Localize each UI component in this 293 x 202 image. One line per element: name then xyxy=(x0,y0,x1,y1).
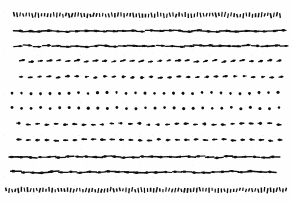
field-tick xyxy=(68,13,69,18)
field-arrow-ink-blob xyxy=(60,171,62,173)
field-arrow-ink-blob xyxy=(129,139,131,141)
field-arrow-ink-blob xyxy=(12,170,15,173)
field-arrow-ink-blob xyxy=(129,123,131,125)
field-arrow-ink-blob xyxy=(255,30,257,32)
field-arrow xyxy=(182,107,185,110)
field-arrow-ink-blob xyxy=(173,170,176,173)
field-arrow-ink-blob xyxy=(105,45,107,47)
field-arrow-ink-blob xyxy=(39,76,41,78)
field-tick xyxy=(64,188,65,191)
field-tick xyxy=(280,13,281,18)
field-arrow-ink-blob xyxy=(88,171,90,173)
field-arrow-ink-blob xyxy=(263,30,265,32)
field-arrow-ink-blob xyxy=(27,124,29,126)
field-arrow-ink-blob xyxy=(103,155,106,158)
field-arrow-ink-blob xyxy=(162,45,164,47)
vector-field-figure xyxy=(0,0,293,202)
field-arrow xyxy=(87,107,90,110)
field-tick xyxy=(17,12,18,17)
field-tick xyxy=(224,189,225,192)
field-arrow-ink-blob xyxy=(94,76,97,79)
field-tick xyxy=(258,189,259,193)
field-arrow-ink-blob xyxy=(113,155,116,158)
field-arrow-ink-blob xyxy=(244,156,246,158)
field-arrow-ink-blob xyxy=(253,156,256,159)
field-arrow xyxy=(163,106,166,109)
field-tick xyxy=(175,14,176,18)
field-arrow-ink-blob xyxy=(124,45,126,47)
field-tick xyxy=(157,12,158,17)
field-tick xyxy=(219,13,220,17)
field-arrow-ink-blob xyxy=(242,59,244,61)
field-tick xyxy=(18,188,19,193)
field-arrow-ink-blob xyxy=(122,30,124,32)
field-arrow-ink-blob xyxy=(76,155,78,157)
field-arrow-ink-blob xyxy=(141,60,143,62)
field-arrow-ink-blob xyxy=(189,31,191,33)
field-tick xyxy=(63,14,64,18)
field-arrow-ink-blob xyxy=(19,45,21,47)
field-arrow-ink-blob xyxy=(196,60,198,62)
field-arrow-ink-blob xyxy=(92,124,94,126)
field-arrow-ink-blob xyxy=(228,45,231,48)
field-tick xyxy=(58,188,59,192)
field-arrow-ink-blob xyxy=(170,29,172,31)
field-arrow-ink-blob xyxy=(67,75,70,78)
field-tick xyxy=(135,189,136,192)
field-arrow xyxy=(239,107,242,110)
field-arrow-ink-blob xyxy=(114,45,116,47)
quiver-plot-canvas xyxy=(0,0,293,202)
field-arrow-nub xyxy=(262,76,265,77)
field-arrow-ink-blob xyxy=(123,59,125,61)
field-arrow-ink-blob xyxy=(145,171,148,174)
field-arrow xyxy=(11,106,14,109)
field-tick xyxy=(231,12,232,16)
field-arrow xyxy=(106,107,109,110)
field-tick xyxy=(267,188,268,193)
field-tick xyxy=(123,188,124,191)
field-arrow-ink-blob xyxy=(259,171,261,173)
field-arrow-ink-blob xyxy=(222,138,224,140)
field-arrow-ink-blob xyxy=(225,155,228,158)
field-tick xyxy=(35,12,36,17)
field-tick xyxy=(119,188,120,192)
field-arrow-ink-blob xyxy=(280,76,282,78)
field-tick xyxy=(193,188,194,192)
field-arrow-ink-blob xyxy=(22,171,25,174)
field-arrow-ink-blob xyxy=(198,29,200,31)
field-arrow-ink-blob xyxy=(104,60,107,63)
field-arrow-ink-blob xyxy=(268,122,270,124)
field-tick xyxy=(206,188,207,192)
field-arrow-ink-blob xyxy=(247,44,250,47)
field-tick xyxy=(237,14,238,18)
field-tick xyxy=(261,12,262,17)
field-arrow-ink-blob xyxy=(215,75,218,78)
field-arrow-ink-blob xyxy=(132,29,134,31)
field-arrow xyxy=(58,106,61,109)
field-arrow xyxy=(173,106,176,109)
field-tick xyxy=(118,12,119,16)
field-arrow xyxy=(258,107,261,110)
field-arrow-ink-blob xyxy=(181,46,183,48)
field-arrow-ink-blob xyxy=(213,138,215,140)
field-tick xyxy=(52,188,53,193)
field-arrow-ink-blob xyxy=(206,75,209,78)
field-arrow-ink-blob xyxy=(152,45,154,47)
field-tick xyxy=(89,188,90,192)
field-arrow-ink-blob xyxy=(86,60,88,62)
field-arrow-ink-blob xyxy=(212,124,214,126)
field-arrow xyxy=(105,91,108,94)
field-arrow-ink-blob xyxy=(259,139,262,142)
field-arrow-ink-blob xyxy=(77,59,80,62)
field-arrow-ink-blob xyxy=(231,139,234,142)
field-arrow-ink-blob xyxy=(94,156,97,159)
field-arrow xyxy=(30,92,33,95)
field-arrow xyxy=(135,107,138,110)
field-arrow-ink-blob xyxy=(269,59,272,62)
field-arrow-ink-blob xyxy=(251,60,253,62)
field-tick xyxy=(133,13,134,18)
field-arrow-ink-blob xyxy=(139,139,142,142)
field-arrow xyxy=(220,107,223,110)
field-arrow-ink-blob xyxy=(40,60,42,62)
field-arrow-ink-blob xyxy=(31,60,34,63)
